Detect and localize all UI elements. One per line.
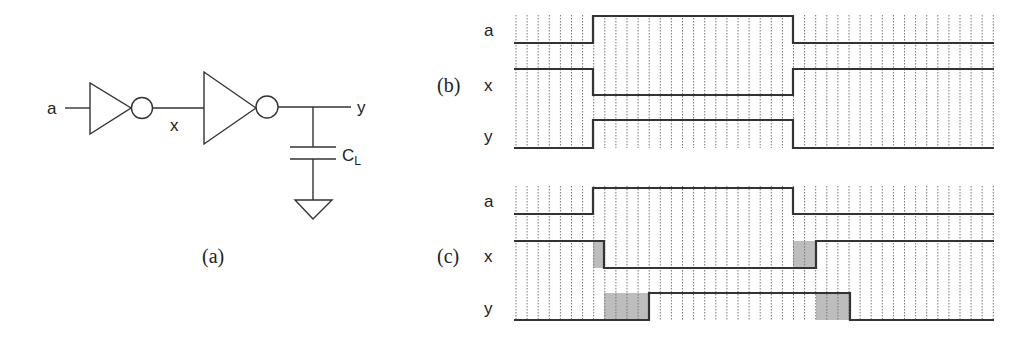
delay-region-y-fall [816, 293, 850, 320]
output-label-y: y [357, 98, 366, 117]
capacitor-label: CL [342, 146, 361, 168]
inverter-1-bubble-icon [132, 98, 153, 119]
waveform-a [514, 16, 994, 43]
delay-region-x-fall [593, 241, 604, 268]
time-grid [516, 15, 993, 148]
signal-label-y: y [484, 299, 493, 318]
caption-b: (b) [437, 74, 460, 97]
inverter-2-icon [204, 72, 256, 144]
waveform-y [514, 293, 994, 320]
inverter-1-icon [90, 83, 131, 134]
waveform-x [514, 69, 994, 95]
timing-diagram-c: (c) a x y [437, 186, 994, 320]
time-grid [516, 186, 993, 320]
signal-label-a: a [484, 21, 494, 40]
inverter-2-bubble-icon [256, 96, 278, 118]
circuit-schematic: a x y CL (a) [47, 72, 366, 268]
caption-a: (a) [202, 245, 224, 268]
input-label-a: a [47, 99, 57, 118]
node-label-x: x [170, 116, 179, 135]
waveform-x [514, 241, 994, 268]
ground-icon [295, 200, 332, 219]
timing-diagram-b: (b) a x y [437, 15, 994, 148]
caption-c: (c) [437, 245, 459, 268]
signal-label-a: a [484, 192, 494, 211]
delay-region-x-rise [793, 241, 816, 268]
signal-label-x: x [484, 247, 493, 266]
signal-label-y: y [484, 127, 493, 146]
figure: a x y CL (a) (b) a x y (c) a x y [0, 0, 1036, 340]
signal-label-x: x [484, 76, 493, 95]
waveform-y [514, 120, 994, 148]
waveform-a [514, 188, 994, 214]
